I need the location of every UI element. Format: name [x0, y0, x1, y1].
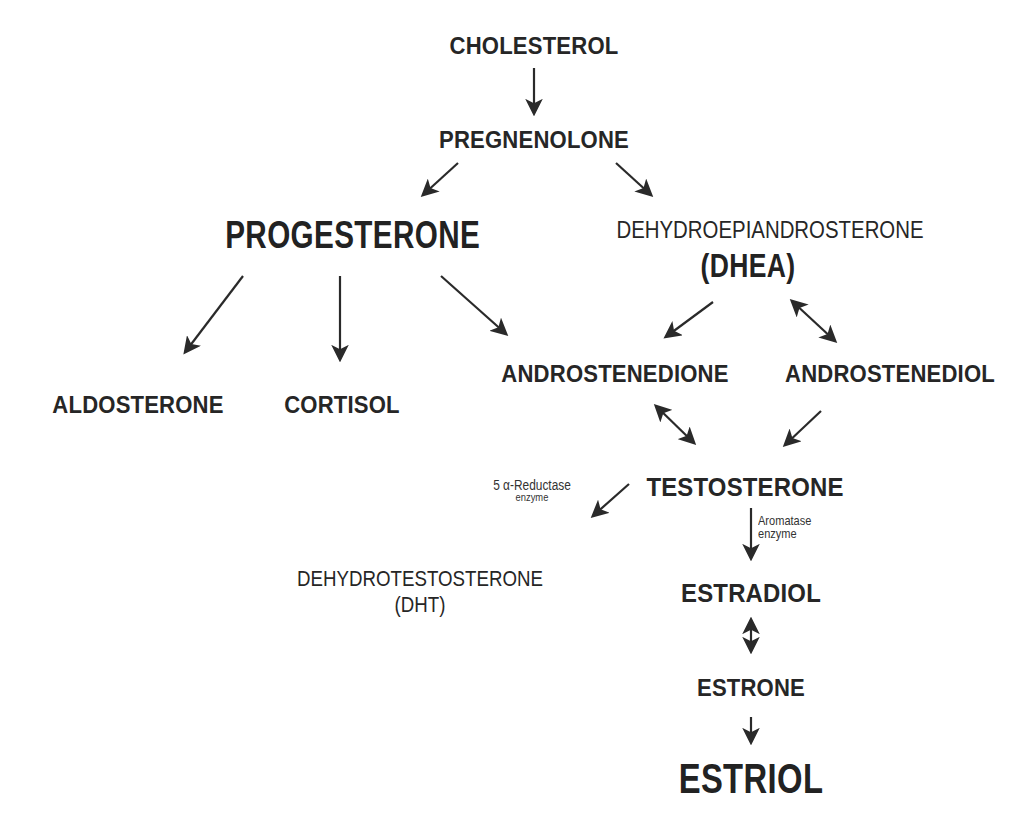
node-cholesterol: CHOLESTEROL — [442, 34, 626, 58]
arrow-progesterone-aldosterone — [186, 276, 243, 351]
arrow-dhea-androstenediol — [793, 302, 834, 340]
label-5a-reductase: 5 α-Reductase enzyme — [473, 478, 592, 503]
arrow-androstenediol-testosterone — [786, 411, 821, 444]
label-5a-reductase-line1: 5 α-Reductase — [473, 478, 592, 492]
node-androstenedione: ANDROSTENEDIONE — [482, 362, 749, 386]
label-aromatase-line2: enzyme — [758, 527, 823, 540]
arrow-androstenedione-testosterone — [657, 407, 693, 442]
arrow-progesterone-androstenedione — [441, 276, 505, 333]
node-estradiol: ESTRADIOL — [667, 580, 834, 606]
node-androstenediol: ANDROSTENEDIOL — [770, 362, 1009, 386]
node-aldosterone: ALDOSTERONE — [37, 393, 239, 417]
label-aromatase: Aromatase enzyme — [758, 514, 823, 540]
arrow-pregnenolone-progesterone — [424, 163, 458, 194]
node-testosterone: TESTOSTERONE — [621, 474, 869, 500]
node-pregnenolone: PREGNENOLONE — [414, 128, 653, 152]
node-progesterone: PROGESTERONE — [225, 216, 475, 254]
arrow-pregnenolone-dhea — [616, 163, 650, 194]
arrow-dhea-androstenedione — [667, 302, 713, 336]
node-cortisol: CORTISOL — [268, 393, 415, 417]
node-dhea-full: DEHYDROEPIANDROSTERONE — [592, 218, 949, 242]
node-dht-full: DEHYDROTESTOSTERONE — [293, 568, 548, 590]
label-5a-reductase-line2: enzyme — [473, 492, 592, 503]
node-estrone: ESTRONE — [676, 676, 825, 700]
node-dhea-abbr: (DHEA) — [690, 248, 807, 282]
node-dht-abbr: (DHT) — [378, 594, 463, 616]
node-estriol: ESTRIOL — [664, 758, 837, 800]
